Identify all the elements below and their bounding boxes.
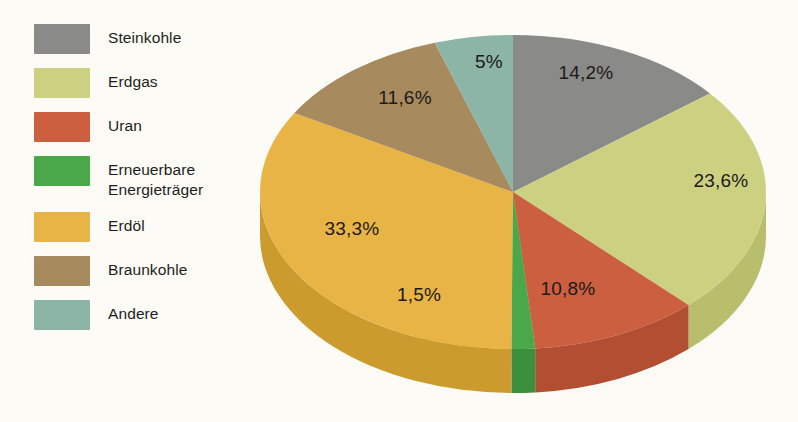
legend-swatch-steinkohle — [34, 24, 90, 54]
legend-swatch-erneuerbare-energietraeger — [34, 156, 90, 186]
legend-item-uran[interactable]: Uran — [34, 112, 264, 142]
legend-label-erdgas: Erdgas — [108, 68, 158, 92]
chart-page: Steinkohle Erdgas Uran Erneuerbare Energ… — [0, 0, 798, 422]
legend-label-erdoel: Erdöl — [108, 212, 145, 236]
chart-legend: Steinkohle Erdgas Uran Erneuerbare Energ… — [34, 24, 264, 344]
legend-label-braunkohle: Braunkohle — [108, 256, 187, 280]
legend-item-erdgas[interactable]: Erdgas — [34, 68, 264, 98]
pie-value-label: 11,6% — [378, 87, 431, 108]
legend-item-braunkohle[interactable]: Braunkohle — [34, 256, 264, 286]
legend-swatch-erdoel — [34, 212, 90, 242]
legend-swatch-uran — [34, 112, 90, 142]
legend-item-steinkohle[interactable]: Steinkohle — [34, 24, 264, 54]
legend-swatch-braunkohle — [34, 256, 90, 286]
pie-value-label: 5% — [475, 51, 503, 72]
pie-chart: 14,2%23,6%10,8%1,5%33,3%11,6%5% — [236, 0, 798, 422]
pie-value-label: 1,5% — [397, 284, 441, 305]
pie-value-label: 10,8% — [541, 278, 596, 299]
legend-swatch-andere — [34, 300, 90, 330]
pie-value-label: 33,3% — [325, 218, 380, 239]
legend-item-erneuerbare-energietraeger[interactable]: Erneuerbare Energieträger — [34, 156, 264, 200]
legend-label-andere: Andere — [108, 300, 159, 324]
pie-slice-side — [511, 348, 535, 393]
pie-chart-svg: 14,2%23,6%10,8%1,5%33,3%11,6%5% — [236, 0, 798, 422]
pie-value-label: 14,2% — [559, 62, 614, 83]
pie-value-label: 23,6% — [694, 170, 749, 191]
legend-item-erdoel[interactable]: Erdöl — [34, 212, 264, 242]
legend-label-erneuerbare-energietraeger: Erneuerbare Energieträger — [108, 156, 203, 200]
legend-swatch-erdgas — [34, 68, 90, 98]
pie-top-faces — [260, 35, 766, 349]
legend-item-andere[interactable]: Andere — [34, 300, 264, 330]
legend-label-uran: Uran — [108, 112, 142, 136]
legend-label-steinkohle: Steinkohle — [108, 24, 181, 48]
